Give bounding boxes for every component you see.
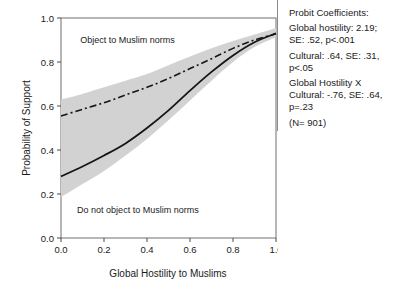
x-tick-label: 0.2: [97, 244, 110, 255]
coefficients-panel: Probit Coefficients: Global hostility: 2…: [279, 0, 417, 288]
panel-divider: [277, 0, 278, 131]
probit-probability-chart: 0.00.20.40.60.81.0 0.00.20.40.60.81.0 Pr…: [0, 0, 278, 288]
coefficient-entry: Cultural: .64, SE: .31, p<.05: [289, 50, 413, 74]
x-tick-label: 0.8: [226, 244, 239, 255]
x-axis-ticks: 0.00.20.40.60.81.0: [54, 238, 278, 255]
y-tick-label: 0.8: [41, 57, 54, 68]
figure-root: 0.00.20.40.60.81.0 0.00.20.40.60.81.0 Pr…: [0, 0, 417, 288]
upper-curve-label: Object to Muslim norms: [80, 35, 175, 45]
coefficient-entry: Global hostility: 2.19; SE: .52, p<.001: [289, 22, 413, 46]
chart-figure: 0.00.20.40.60.81.0 0.00.20.40.60.81.0 Pr…: [0, 0, 278, 288]
x-axis-label: Global Hostility to Muslims: [109, 268, 226, 279]
y-axis-ticks: 0.00.20.40.60.81.0: [41, 13, 61, 244]
lower-curve-label: Do not object to Muslim norms: [77, 205, 199, 215]
coefficients-heading: Probit Coefficients:: [289, 7, 413, 19]
coefficient-entry: Global Hostility X Cultural: -.76, SE: .…: [289, 77, 413, 114]
y-tick-label: 0.2: [41, 189, 54, 200]
x-tick-label: 0.4: [140, 244, 153, 255]
x-tick-label: 0.6: [183, 244, 196, 255]
y-tick-label: 0.4: [41, 145, 54, 156]
x-tick-label: 0.0: [54, 244, 67, 255]
y-axis-label: Probability of Support: [21, 80, 32, 176]
y-tick-label: 0.6: [41, 101, 54, 112]
y-tick-label: 0.0: [41, 233, 54, 244]
sample-size: (N= 901): [289, 117, 413, 129]
x-tick-label: 1.0: [269, 244, 278, 255]
y-tick-label: 1.0: [41, 13, 54, 24]
